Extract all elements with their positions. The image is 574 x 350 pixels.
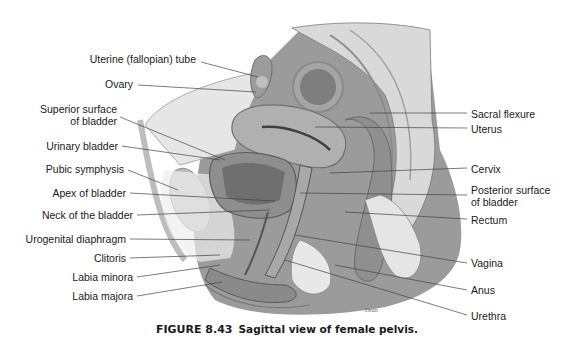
label-superior-surface-line2: of bladder [70, 115, 117, 127]
label-rectum: Rectum [471, 214, 507, 226]
label-clitoris: Clitoris [94, 252, 126, 264]
label-ovary: Ovary [105, 78, 133, 90]
label-posterior-surface-line1: Posterior surface [471, 184, 550, 196]
label-urogenital-diaphragm: Urogenital diaphragm [26, 233, 126, 245]
figure-number: FIGURE 8.43 [156, 323, 233, 336]
figure-caption-text: Sagittal view of female pelvis. [239, 323, 419, 335]
label-uterine-tube: Uterine (fallopian) tube [90, 53, 196, 65]
label-superior-surface-line1: Superior surface [40, 103, 117, 115]
label-cervix: Cervix [471, 163, 501, 175]
label-uterus: Uterus [471, 123, 502, 135]
svg-text:Dean: Dean [364, 307, 378, 313]
label-urethra: Urethra [471, 310, 506, 322]
label-anus: Anus [471, 284, 495, 296]
label-apex-of-bladder: Apex of bladder [52, 187, 126, 199]
label-labia-minora: Labia minora [72, 271, 133, 283]
label-vagina: Vagina [471, 257, 503, 269]
label-neck-of-bladder: Neck of the bladder [42, 209, 133, 221]
label-posterior-surface-line2: of bladder [471, 196, 518, 208]
label-urinary-bladder: Urinary bladder [46, 140, 118, 152]
figure-caption: FIGURE 8.43Sagittal view of female pelvi… [0, 323, 574, 336]
sagittal-pelvis-figure: Dean Uterine (fallopian) tu [0, 0, 574, 350]
label-pubic-symphysis: Pubic symphysis [46, 163, 124, 175]
label-labia-majora: Labia majora [72, 290, 133, 302]
label-sacral-flexure: Sacral flexure [471, 108, 535, 120]
